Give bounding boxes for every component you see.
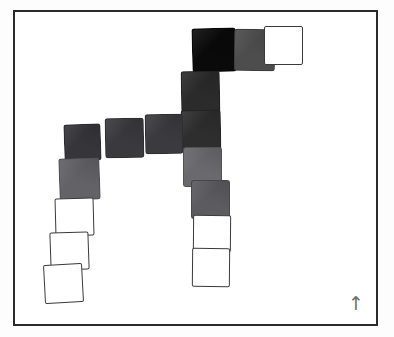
tile-top-black[interactable] bbox=[191, 27, 236, 72]
tile-left-white-lower[interactable] bbox=[43, 263, 84, 304]
tile-arm-left-mid[interactable] bbox=[105, 118, 145, 159]
tile-stem-center[interactable] bbox=[181, 110, 222, 151]
up-arrow-icon: ↑ bbox=[348, 292, 362, 314]
tile-arm-left-outer[interactable] bbox=[63, 123, 101, 161]
tile-stem-foot-gray[interactable] bbox=[191, 180, 230, 219]
tile-right-white-down[interactable] bbox=[192, 248, 230, 287]
tile-right-white-up[interactable] bbox=[193, 215, 231, 252]
tile-stem-upper[interactable] bbox=[181, 71, 221, 114]
tile-arm-left-inner[interactable] bbox=[145, 114, 184, 155]
tile-left-down-gray[interactable] bbox=[58, 157, 100, 200]
tile-top-white[interactable] bbox=[264, 26, 303, 65]
figure-root: ↑ bbox=[0, 0, 394, 337]
tile-left-white-upper[interactable] bbox=[55, 197, 95, 236]
